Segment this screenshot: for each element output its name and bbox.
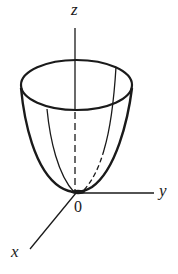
- x-axis: [30, 193, 76, 249]
- paraboloid-diagram: z y 0 x: [0, 0, 178, 274]
- meridian-right: [104, 67, 116, 150]
- y-axis-label: y: [157, 181, 167, 200]
- z-axis-label: z: [70, 0, 78, 19]
- x-axis-label: x: [10, 242, 19, 261]
- vertex-mark: [71, 190, 85, 194]
- origin-label: 0: [74, 198, 82, 215]
